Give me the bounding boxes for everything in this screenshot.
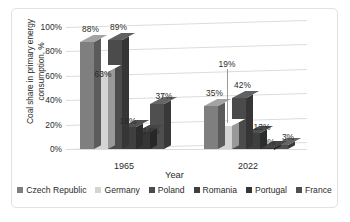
- bar-top: [108, 33, 135, 40]
- bar-side: [164, 100, 171, 149]
- data-label: 19%: [219, 59, 236, 69]
- data-label: 63%: [95, 69, 112, 79]
- legend-swatch-icon: [246, 187, 252, 193]
- label-leader-line: [227, 69, 228, 123]
- legend-item-poland[interactable]: Poland: [149, 185, 185, 195]
- legend-label: Romania: [203, 185, 237, 195]
- data-label: 3%: [282, 132, 294, 142]
- bar-czech-republic-1965: [80, 42, 94, 149]
- legend-item-czech-republic[interactable]: Czech Republic: [17, 185, 86, 195]
- plot-area: 0%20%40%60%80%100%88%63%89%18%14%37%1965…: [66, 27, 314, 149]
- legend-swatch-icon: [17, 187, 23, 193]
- y-axis-tick-label: 80%: [45, 46, 62, 56]
- legend-label: Czech Republic: [26, 185, 86, 195]
- y-axis-title-line2: consumption, %: [35, 42, 45, 100]
- axis-baseline: [66, 149, 307, 150]
- legend-label: France: [305, 185, 332, 195]
- legend-label: Portugal: [255, 185, 287, 195]
- data-label: 18%: [120, 116, 137, 126]
- y-axis-title-line1: Coal share in primary energy: [25, 19, 35, 124]
- bar-side: [218, 103, 225, 149]
- bar-side: [246, 94, 253, 149]
- chart-container: Coal share in primary energy consumption…: [11, 8, 338, 208]
- bar-side: [108, 68, 115, 149]
- data-label: 0%: [263, 137, 275, 147]
- bar-side: [94, 38, 101, 149]
- data-label: 37%: [156, 91, 173, 101]
- legend-item-portugal[interactable]: Portugal: [246, 185, 287, 195]
- bar-face: [204, 106, 218, 149]
- data-label: 35%: [206, 88, 223, 98]
- legend-label: Germany: [104, 185, 139, 195]
- y-axis-tick-label: 40%: [45, 95, 62, 105]
- x-axis-title: Year: [12, 169, 337, 180]
- legend-swatch-icon: [95, 187, 101, 193]
- data-label: 14%: [143, 126, 160, 136]
- legend-item-germany[interactable]: Germany: [95, 185, 139, 195]
- bar-side: [122, 37, 129, 149]
- y-axis-tick-label: 100%: [41, 22, 62, 32]
- chart-legend: Czech RepublicGermanyPolandRomaniaPortug…: [12, 185, 337, 195]
- y-axis-tick-label: 60%: [45, 71, 62, 81]
- y-axis-tick-label: 0%: [50, 144, 62, 154]
- legend-item-romania[interactable]: Romania: [194, 185, 237, 195]
- legend-swatch-icon: [194, 187, 200, 193]
- gridline: [66, 44, 307, 52]
- bar-face: [80, 42, 94, 149]
- data-label: 13%: [254, 122, 271, 132]
- legend-label: Poland: [158, 185, 185, 195]
- bar-side: [232, 122, 239, 149]
- data-label: 89%: [110, 22, 127, 32]
- y-axis-tick-label: 20%: [45, 120, 62, 130]
- data-label: 42%: [234, 80, 251, 90]
- bar-top: [80, 35, 107, 42]
- gridline: [66, 20, 307, 28]
- legend-swatch-icon: [296, 187, 302, 193]
- legend-swatch-icon: [149, 187, 155, 193]
- data-label: 88%: [82, 24, 99, 34]
- bar-czech-republic-2022: [204, 106, 218, 149]
- legend-item-france[interactable]: France: [296, 185, 332, 195]
